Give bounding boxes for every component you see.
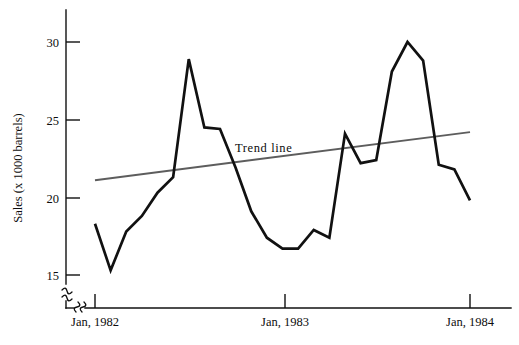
x-tick-label-1983: Jan, 1983 — [261, 315, 309, 329]
x-tick-label-1982: Jan, 1982 — [71, 315, 119, 329]
trend-line-path — [95, 132, 470, 180]
y-tick-label-25: 25 — [47, 114, 60, 128]
y-tick-label-30: 30 — [47, 36, 60, 50]
y-axis-break-icon-2 — [62, 295, 72, 301]
x-tick-label-1984: Jan, 1984 — [446, 315, 495, 329]
chart-canvas: 15 20 25 30 Sales (x 1000 barrels) Jan, … — [0, 0, 519, 345]
y-tick-label-15: 15 — [47, 269, 60, 283]
x-axis-break-icon — [74, 302, 80, 312]
x-axis-break-icon-2 — [80, 302, 86, 312]
y-axis-title: Sales (x 1000 barrels) — [11, 113, 25, 222]
trend-line-annotation: Trend line — [235, 141, 292, 155]
sales-trend-chart: 15 20 25 30 Sales (x 1000 barrels) Jan, … — [0, 0, 519, 345]
y-axis-break-icon — [62, 288, 72, 294]
y-tick-label-20: 20 — [47, 192, 60, 206]
